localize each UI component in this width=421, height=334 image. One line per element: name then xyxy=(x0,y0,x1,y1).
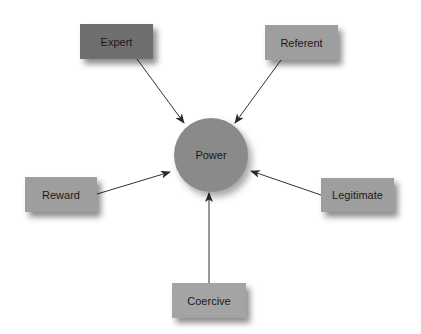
edge-referent-to-power xyxy=(235,60,281,123)
expert-label: Expert xyxy=(101,36,133,48)
coercive-node: Coercive xyxy=(172,283,246,318)
edge-legitimate-to-power xyxy=(251,171,321,195)
legitimate-label: Legitimate xyxy=(332,189,383,201)
diagram-canvas: Power Expert Referent Reward Legitimate … xyxy=(0,0,421,334)
coercive-label: Coercive xyxy=(187,295,230,307)
edge-expert-to-power xyxy=(137,59,184,123)
power-node: Power xyxy=(174,118,248,192)
referent-label: Referent xyxy=(280,37,322,49)
expert-node: Expert xyxy=(80,24,153,59)
power-label: Power xyxy=(195,149,226,161)
edge-reward-to-power xyxy=(97,172,170,194)
legitimate-node: Legitimate xyxy=(321,178,394,212)
reward-node: Reward xyxy=(25,177,97,212)
referent-node: Referent xyxy=(265,25,338,60)
reward-label: Reward xyxy=(42,189,80,201)
